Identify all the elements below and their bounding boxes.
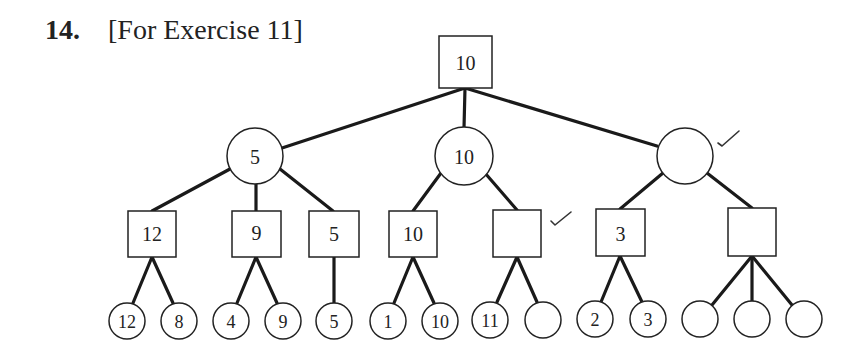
max-node-5: [493, 210, 571, 257]
leaf-node: [734, 301, 770, 337]
check-mark-icon: [551, 212, 571, 225]
game-tree-diagram: 10 5 10 12 9 5 10 3: [0, 0, 864, 354]
tree-edges: [133, 88, 792, 305]
min-node-3: [657, 128, 739, 184]
svg-text:12: 12: [118, 312, 136, 332]
min-node-1: 5: [227, 128, 283, 184]
leaf-node: [525, 302, 561, 338]
svg-text:10: 10: [454, 146, 474, 168]
min-node-2: 10: [435, 127, 493, 185]
svg-text:12: 12: [142, 223, 162, 245]
svg-text:2: 2: [591, 310, 600, 330]
max-node-7: [728, 208, 776, 256]
svg-text:11: 11: [481, 311, 498, 331]
svg-text:4: 4: [227, 312, 236, 332]
svg-text:10: 10: [403, 223, 423, 245]
svg-text:8: 8: [175, 312, 184, 332]
max-node-1: 12: [128, 211, 176, 257]
svg-text:5: 5: [250, 146, 260, 168]
root-node: 10: [439, 36, 492, 88]
svg-text:5: 5: [330, 312, 339, 332]
leaf-node: 8: [161, 303, 197, 339]
svg-text:3: 3: [644, 310, 653, 330]
leaf-node: [682, 301, 718, 337]
leaf-node: 1: [370, 303, 406, 339]
svg-text:10: 10: [431, 312, 449, 332]
leaf-node: 12: [109, 303, 145, 339]
max-node-6: 3: [596, 209, 645, 256]
svg-text:5: 5: [329, 223, 339, 245]
root-value: 10: [456, 52, 476, 74]
leaf-node: [786, 301, 822, 337]
leaf-nodes: 12 8 4 9 5 1 10 11 2 3: [109, 301, 822, 339]
leaf-node: 4: [213, 303, 249, 339]
svg-text:9: 9: [279, 312, 288, 332]
max-node-2: 9: [232, 211, 281, 257]
leaf-node: 9: [265, 303, 301, 339]
leaf-node: 3: [630, 301, 666, 337]
svg-text:3: 3: [616, 223, 626, 245]
check-mark-icon: [718, 131, 739, 146]
max-node-3: 5: [309, 211, 359, 257]
leaf-node: 11: [472, 302, 508, 338]
leaf-node: 10: [422, 303, 458, 339]
leaf-node: 5: [316, 303, 352, 339]
leaf-node: 2: [577, 301, 613, 337]
max-node-4: 10: [389, 211, 437, 257]
svg-text:9: 9: [252, 222, 262, 244]
svg-text:1: 1: [384, 312, 393, 332]
